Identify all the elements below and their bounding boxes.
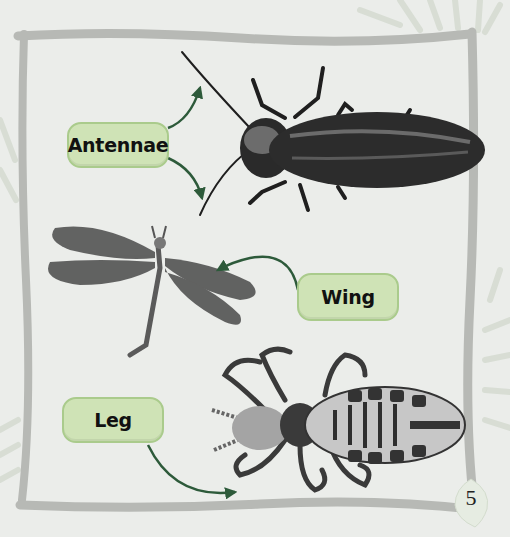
- label-leg: Leg: [62, 397, 164, 443]
- book-page: Antennae Wing Leg 5: [0, 0, 510, 537]
- label-antennae: Antennae: [67, 122, 169, 168]
- label-wing: Wing: [297, 273, 399, 321]
- page-number: 5: [451, 485, 491, 511]
- arrow-wing: [218, 257, 298, 290]
- arrow-antennae-lower: [168, 158, 202, 198]
- arrow-antennae-upper: [168, 88, 200, 128]
- arrow-leg: [148, 445, 235, 493]
- page-number-badge: 5: [451, 475, 491, 525]
- pointer-arrows: [0, 0, 510, 537]
